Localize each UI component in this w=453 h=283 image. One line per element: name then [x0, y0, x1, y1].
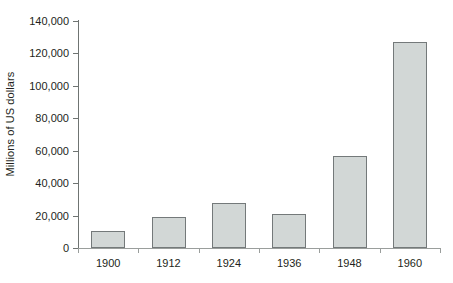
- x-tick-label: 1960: [380, 257, 440, 269]
- y-tick-label: 60,000: [35, 145, 69, 157]
- y-tick-label: 140,000: [29, 15, 69, 27]
- bar: [212, 203, 246, 248]
- bar: [91, 231, 125, 248]
- x-tick-label: 1912: [138, 257, 198, 269]
- y-tick-mark: [73, 118, 78, 119]
- y-tick-mark: [73, 86, 78, 87]
- x-tick-mark: [138, 248, 139, 253]
- x-tick-mark: [199, 248, 200, 253]
- x-tick-mark: [78, 248, 79, 253]
- y-tick-label: 120,000: [29, 47, 69, 59]
- x-tick-mark: [380, 248, 381, 253]
- y-tick-label: 0: [63, 242, 69, 254]
- y-tick-label: 20,000: [35, 210, 69, 222]
- y-tick-mark: [73, 21, 78, 22]
- bar: [152, 217, 186, 248]
- plot-area: 020,00040,00060,00080,000100,000120,0001…: [78, 21, 440, 248]
- x-tick-label: 1924: [199, 257, 259, 269]
- bar: [393, 42, 427, 248]
- y-tick-mark: [73, 53, 78, 54]
- y-tick-mark: [73, 151, 78, 152]
- y-axis-title-label: Millions of US dollars: [4, 72, 16, 177]
- y-tick-mark: [73, 216, 78, 217]
- x-tick-label: 1948: [319, 257, 379, 269]
- x-tick-label: 1900: [78, 257, 138, 269]
- bar: [272, 214, 306, 248]
- y-tick-label: 100,000: [29, 80, 69, 92]
- bar: [333, 156, 367, 248]
- x-tick-mark: [259, 248, 260, 253]
- x-tick-mark: [319, 248, 320, 253]
- bar-chart-figure: Millions of US dollars 020,00040,00060,0…: [0, 0, 453, 283]
- y-tick-label: 80,000: [35, 112, 69, 124]
- x-tick-mark: [440, 248, 441, 253]
- y-tick-label: 40,000: [35, 177, 69, 189]
- x-tick-label: 1936: [259, 257, 319, 269]
- y-tick-mark: [73, 183, 78, 184]
- y-axis-title: Millions of US dollars: [0, 0, 20, 248]
